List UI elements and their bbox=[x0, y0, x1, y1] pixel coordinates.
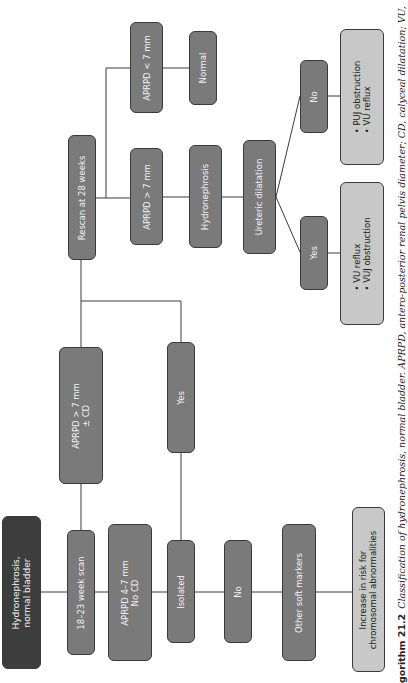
outcome-no-item: VU reflux bbox=[362, 61, 372, 133]
root-node-label: Hydronephrosis, normal bladder bbox=[11, 556, 33, 629]
aprpd-4-7-node: APRPD 4–7 mm No CD bbox=[108, 524, 152, 661]
outcome-no-item: PUJ obstruction bbox=[352, 61, 362, 133]
normal-label: Normal bbox=[198, 53, 208, 84]
figure-caption: gorithm 21.2Classification of hydronephr… bbox=[396, 6, 407, 683]
rescan-28-node: Rescan at 28 weeks bbox=[68, 135, 96, 260]
hydronephrosis-node: Hydronephrosis bbox=[189, 145, 222, 248]
no-left-node: No bbox=[224, 540, 252, 643]
no-right-label: No bbox=[309, 91, 319, 103]
root-node: Hydronephrosis, normal bladder bbox=[2, 516, 41, 669]
caption-label: gorithm 21.2 bbox=[396, 614, 407, 683]
increase-risk-node: Increase in risk for chromosomal abnorma… bbox=[352, 507, 385, 672]
aprpd-gt7-cd-line2: ± CD bbox=[81, 383, 91, 449]
normal-node: Normal bbox=[189, 31, 217, 105]
ureteric-dilatation-node: Ureteric dilatation bbox=[243, 140, 276, 254]
increase-risk-line1: Increase in risk for bbox=[359, 530, 369, 648]
isolated-node: Isolated bbox=[167, 540, 195, 643]
outcome-yes-item: VUJ obstruction bbox=[362, 217, 372, 290]
ureteric-dilatation-label: Ureteric dilatation bbox=[255, 159, 265, 236]
other-soft-markers-label: Other soft markers bbox=[294, 552, 304, 632]
yes-left-node: Yes bbox=[167, 342, 195, 453]
yes-left-label: Yes bbox=[176, 391, 186, 405]
flowchart: Hydronephrosis, normal bladder 18–23 wee… bbox=[0, 0, 408, 683]
other-soft-markers-node: Other soft markers bbox=[282, 524, 316, 661]
aprpd-4-7-line1: APRPD 4–7 mm bbox=[120, 560, 130, 626]
outcome-yes-label: VU reflux VUJ obstruction bbox=[352, 217, 372, 290]
yes-right-label: Yes bbox=[309, 246, 319, 260]
increase-risk-label: Increase in risk for chromosomal abnorma… bbox=[359, 530, 379, 648]
no-right-node: No bbox=[300, 60, 328, 133]
scan-18-23-node: 18–23 week scan bbox=[67, 530, 95, 655]
aprpd-gt7-label: APRPD > 7 mm bbox=[142, 164, 152, 230]
no-left-label: No bbox=[233, 586, 243, 598]
hydronephrosis-label: Hydronephrosis bbox=[201, 163, 211, 229]
aprpd-lt7-label: APRPD < 7 mm bbox=[142, 35, 152, 101]
isolated-label: Isolated bbox=[176, 575, 186, 609]
caption-text: Classification of hydronephrosis, normal… bbox=[396, 6, 407, 608]
aprpd-gt7-cd-line1: APRPD > 7 mm bbox=[71, 383, 81, 449]
aprpd-gt7-node: APRPD > 7 mm bbox=[130, 148, 163, 245]
outcome-yes-node: VU reflux VUJ obstruction bbox=[340, 182, 384, 325]
yes-right-node: Yes bbox=[300, 216, 328, 290]
aprpd-gt7-cd-label: APRPD > 7 mm ± CD bbox=[71, 383, 91, 449]
aprpd-gt7-cd-node: APRPD > 7 mm ± CD bbox=[59, 347, 103, 484]
aprpd-4-7-label: APRPD 4–7 mm No CD bbox=[120, 560, 140, 626]
rescan-28-label: Rescan at 28 weeks bbox=[77, 155, 87, 240]
outcome-yes-item: VU reflux bbox=[352, 217, 362, 290]
outcome-no-label: PUJ obstruction VU reflux bbox=[352, 61, 372, 133]
increase-risk-line2: chromosomal abnormalities bbox=[369, 530, 379, 648]
scan-18-23-label: 18–23 week scan bbox=[76, 556, 86, 629]
aprpd-lt7-node: APRPD < 7 mm bbox=[130, 22, 163, 113]
outcome-no-node: PUJ obstruction VU reflux bbox=[340, 29, 384, 165]
aprpd-4-7-line2: No CD bbox=[130, 560, 140, 626]
